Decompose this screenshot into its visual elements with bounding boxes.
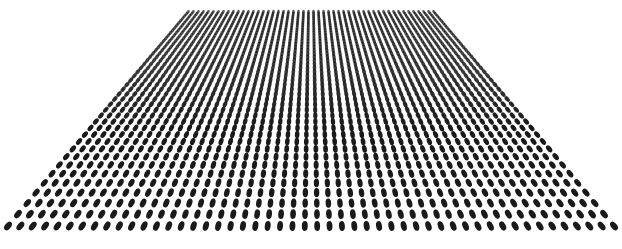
grid-dot (254, 209, 261, 219)
grid-dot (239, 221, 247, 232)
grid-dot (331, 124, 336, 132)
grid-dot (277, 124, 282, 132)
grid-dot (483, 124, 491, 133)
grid-dot (233, 117, 239, 125)
grid-dot (469, 187, 478, 198)
grid-dot (227, 221, 235, 232)
grid-dot (314, 161, 319, 169)
grid-dot (514, 187, 523, 198)
grid-dot (313, 153, 318, 161)
grid-dot (529, 137, 538, 146)
grid-dot (475, 178, 484, 188)
grid-dot (412, 152, 419, 161)
grid-dot (386, 130, 393, 139)
grid-dot (268, 188, 274, 198)
grid-dot (173, 130, 180, 139)
grid-dot (49, 209, 59, 220)
grid-dot (215, 178, 223, 188)
grid-dot (40, 220, 51, 231)
grid-dot (520, 137, 528, 146)
grid-dot (596, 220, 607, 231)
grid-dot (237, 178, 244, 188)
grid-dot (521, 152, 530, 161)
grid-dot (303, 153, 308, 161)
grid-dot (487, 144, 495, 153)
grid-dot (224, 117, 230, 125)
grid-dot (294, 138, 299, 146)
grid-dot (358, 188, 365, 198)
grid-dot (513, 117, 521, 125)
grid-dot (27, 220, 38, 231)
grid-dot (405, 198, 413, 209)
grid-dot (223, 152, 230, 161)
grid-dot (510, 137, 518, 146)
grid-dot (456, 209, 465, 220)
grid-dot (230, 160, 237, 169)
grid-dot (94, 137, 102, 146)
grid-dot (225, 144, 232, 153)
grid-dot (562, 178, 572, 188)
grid-dot (548, 160, 557, 170)
grid-dot (118, 117, 126, 125)
grid-dot (408, 169, 416, 179)
grid-dot (86, 124, 94, 133)
grid-dot (121, 187, 130, 198)
grid-dot (257, 130, 263, 138)
grid-dot (354, 160, 360, 169)
grid-dot (196, 169, 204, 179)
grid-dot (486, 178, 495, 188)
grid-dot (158, 160, 166, 170)
grid-dot (79, 169, 88, 179)
grid-dot (558, 160, 567, 170)
grid-dot (105, 178, 114, 188)
grid-dot (166, 187, 175, 197)
grid-dot (280, 188, 286, 197)
grid-dot (376, 169, 383, 178)
grid-dot (402, 124, 409, 132)
grid-dot (304, 124, 309, 131)
grid-dot (213, 124, 220, 132)
grid-dot (368, 130, 374, 138)
grid-dot (294, 145, 299, 153)
grid-dot (189, 187, 197, 197)
grid-dot (87, 187, 97, 198)
grid-dot (402, 152, 409, 161)
grid-dot (565, 169, 574, 179)
grid-dot (250, 169, 257, 178)
grid-dot (243, 152, 250, 161)
grid-dot (387, 169, 394, 179)
grid-dot (176, 144, 184, 153)
grid-dot (462, 152, 470, 161)
grid-dot (114, 124, 122, 133)
grid-dot (533, 130, 541, 139)
grid-dot (346, 178, 352, 187)
grid-dot (425, 187, 433, 197)
grid-dot (267, 198, 274, 208)
grid-dot (177, 220, 186, 231)
grid-dot (166, 144, 174, 153)
grid-dot (15, 220, 26, 231)
grid-dot (139, 220, 149, 231)
grid-dot (509, 124, 517, 133)
grid-dot (516, 144, 525, 153)
grid-dot (240, 124, 246, 132)
grid-dot (45, 198, 55, 209)
grid-dot (75, 137, 84, 146)
grid-dot (467, 144, 475, 153)
grid-dot (411, 124, 418, 133)
grid-dot (449, 220, 458, 231)
grid-dot (353, 152, 359, 161)
grid-dot (220, 160, 227, 169)
grid-dot (290, 209, 296, 219)
grid-dot (314, 178, 319, 187)
grid-dot (127, 198, 136, 209)
grid-dot (155, 130, 163, 139)
grid-dot (468, 209, 477, 220)
grid-dot (133, 209, 142, 220)
grid-dot (95, 124, 103, 133)
grid-dot (398, 137, 405, 146)
grid-dot (551, 152, 560, 161)
grid-dot (257, 188, 264, 198)
grid-dot (454, 178, 462, 188)
grid-dot (127, 220, 137, 231)
